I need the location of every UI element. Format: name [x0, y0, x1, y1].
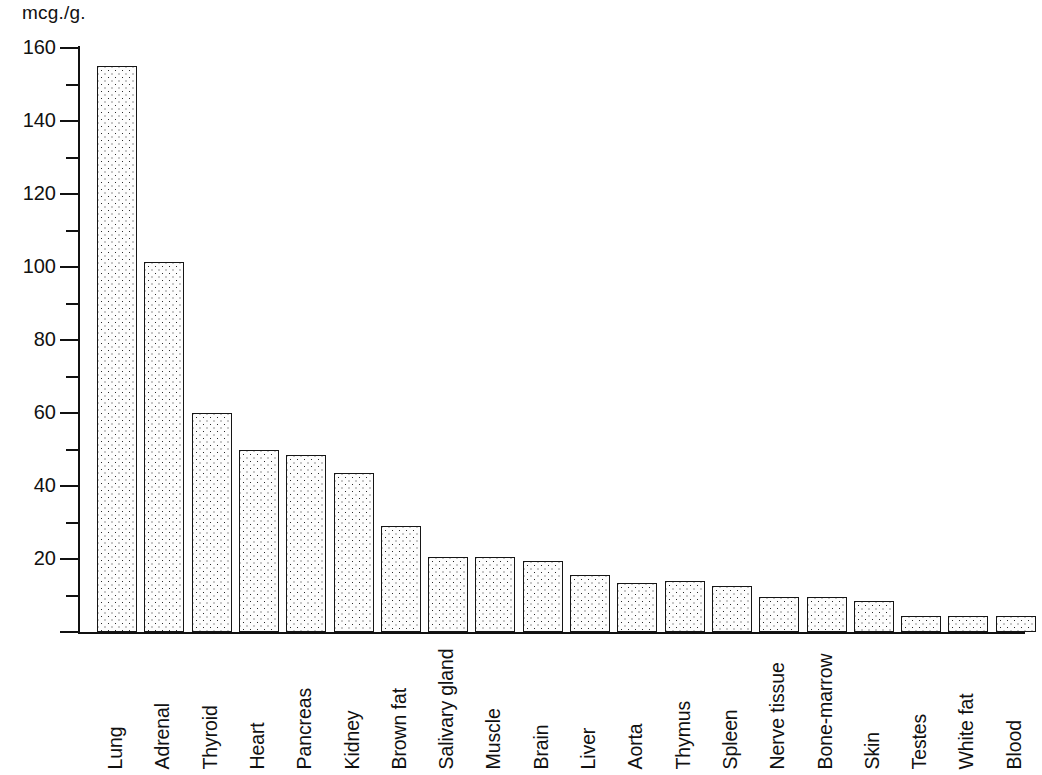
x-category-label: Testes	[910, 713, 930, 769]
x-category-label: White fat	[957, 693, 977, 769]
x-category-label: Brown fat	[389, 688, 409, 769]
bar	[901, 616, 941, 632]
bar	[475, 557, 515, 632]
x-axis-category-labels: LungAdrenalThyroidHeartPancreasKidneyBro…	[0, 636, 1042, 775]
x-category-label: Spleen	[720, 709, 740, 769]
bar	[192, 413, 232, 632]
x-category-label: Muscle	[484, 708, 504, 769]
bar	[617, 583, 657, 632]
x-category-label: Thymus	[673, 700, 693, 769]
x-category-label: Thyroid	[200, 705, 220, 769]
bar-chart: mcg./g. 20406080100120140160 LungAdrenal…	[0, 0, 1042, 775]
bar	[996, 616, 1036, 632]
x-category-label: Kidney	[342, 710, 362, 769]
bar	[523, 561, 563, 632]
x-category-label: Lung	[106, 726, 126, 769]
x-category-label: Heart	[247, 722, 267, 769]
bar	[239, 450, 279, 633]
bar	[807, 597, 847, 632]
bar	[97, 66, 137, 632]
x-category-label: Bone-marrow	[815, 653, 835, 769]
x-category-label: Pancreas	[295, 687, 315, 769]
bar	[854, 601, 894, 632]
plot-area: 20406080100120140160	[0, 0, 1042, 660]
bar	[381, 526, 421, 632]
bar	[334, 473, 374, 632]
bar	[144, 262, 184, 632]
x-category-label: Adrenal	[153, 702, 173, 769]
x-category-label: Salivary gland	[437, 648, 457, 769]
bar	[759, 597, 799, 632]
bar	[428, 557, 468, 632]
x-category-label: Liver	[579, 727, 599, 769]
x-category-label: Nerve tissue	[768, 662, 788, 769]
bar	[665, 581, 705, 632]
x-category-label: Aorta	[626, 723, 646, 769]
bar	[712, 586, 752, 632]
bar-series	[0, 0, 1042, 660]
bar	[948, 616, 988, 632]
x-category-label: Skin	[862, 731, 882, 769]
bar	[286, 455, 326, 632]
bar	[570, 575, 610, 632]
x-category-label: Blood	[1004, 720, 1024, 769]
x-category-label: Brain	[531, 724, 551, 769]
